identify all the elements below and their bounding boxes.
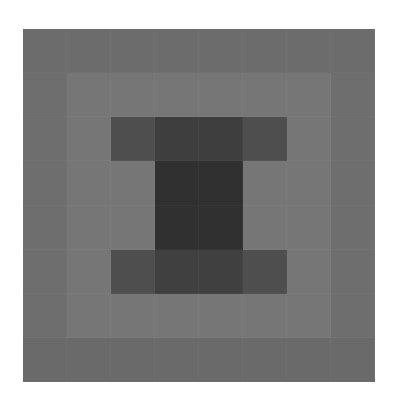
heatmap-cell xyxy=(331,206,375,250)
heatmap-cell xyxy=(23,250,67,294)
heatmap-cell xyxy=(243,294,287,338)
heatmap-cell xyxy=(199,250,243,294)
heatmap-cell xyxy=(155,250,199,294)
heatmap-cell xyxy=(155,117,199,161)
heatmap-cell xyxy=(111,294,155,338)
heatmap-cell xyxy=(331,161,375,205)
heatmap-cell xyxy=(331,250,375,294)
heatmap-cell xyxy=(23,29,67,73)
heatmap-cell xyxy=(67,29,111,73)
heatmap-cell xyxy=(155,206,199,250)
heatmap-cell xyxy=(243,73,287,117)
heatmap-cell xyxy=(199,206,243,250)
heatmap-cell xyxy=(243,161,287,205)
heatmap-cell xyxy=(243,29,287,73)
heatmap-cell xyxy=(23,294,67,338)
heatmap-cell xyxy=(67,294,111,338)
heatmap-cell xyxy=(67,161,111,205)
heatmap-cell xyxy=(111,161,155,205)
heatmap-cell xyxy=(199,73,243,117)
heatmap-cell xyxy=(331,117,375,161)
heatmap-cell xyxy=(155,294,199,338)
heatmap-cell xyxy=(287,294,331,338)
figure xyxy=(0,0,399,412)
heatmap-cell xyxy=(111,117,155,161)
heatmap-cell xyxy=(199,338,243,382)
heatmap-cell xyxy=(155,338,199,382)
heatmap-cell xyxy=(287,338,331,382)
heatmap-cell xyxy=(67,338,111,382)
heatmap-cell xyxy=(111,250,155,294)
heatmap-cell xyxy=(287,29,331,73)
heatmap-cell xyxy=(243,206,287,250)
heatmap-cell xyxy=(287,161,331,205)
heatmap-cell xyxy=(111,73,155,117)
heatmap-cell xyxy=(331,29,375,73)
heatmap-cell xyxy=(199,161,243,205)
heatmap-grid xyxy=(23,29,375,382)
heatmap-cell xyxy=(199,117,243,161)
heatmap-cell xyxy=(331,294,375,338)
heatmap-cell xyxy=(23,117,67,161)
heatmap-cell xyxy=(287,206,331,250)
heatmap-cell xyxy=(243,250,287,294)
heatmap-cell xyxy=(287,73,331,117)
heatmap-cell xyxy=(155,29,199,73)
heatmap-cell xyxy=(111,29,155,73)
heatmap-cell xyxy=(67,250,111,294)
heatmap-cell xyxy=(243,117,287,161)
heatmap-cell xyxy=(23,73,67,117)
heatmap-cell xyxy=(23,206,67,250)
heatmap-cell xyxy=(331,73,375,117)
heatmap-cell xyxy=(287,117,331,161)
heatmap-cell xyxy=(199,29,243,73)
heatmap-cell xyxy=(111,338,155,382)
heatmap-cell xyxy=(67,117,111,161)
heatmap-cell xyxy=(155,73,199,117)
heatmap-cell xyxy=(23,161,67,205)
heatmap-cell xyxy=(155,161,199,205)
heatmap-cell xyxy=(23,338,67,382)
heatmap-cell xyxy=(67,73,111,117)
heatmap-cell xyxy=(111,206,155,250)
heatmap-cell xyxy=(67,206,111,250)
heatmap-cell xyxy=(243,338,287,382)
heatmap-cell xyxy=(331,338,375,382)
heatmap-cell xyxy=(287,250,331,294)
heatmap-cell xyxy=(199,294,243,338)
